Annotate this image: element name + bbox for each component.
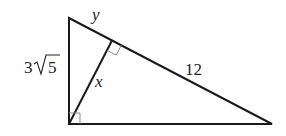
label-12: 12 [185,60,202,79]
label-vertical-leg-radicand: 5 [48,58,57,77]
label-x: x [94,72,103,91]
label-vertical-leg: 3 5 [24,55,60,77]
right-triangle-diagram: y 3 5 x 12 [0,0,286,136]
label-vertical-leg-coefficient: 3 [24,58,33,77]
altitude-line [69,41,112,125]
triangle-outline [69,18,272,124]
label-y: y [90,5,100,24]
